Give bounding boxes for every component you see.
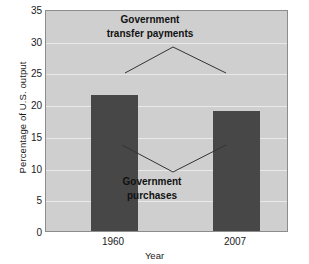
annotation-line: Government	[100, 175, 204, 189]
annotation-line: purchases	[100, 189, 204, 203]
x-tick-label-1960: 1960	[83, 236, 143, 247]
gridline	[46, 74, 287, 75]
bar-2007	[213, 111, 260, 231]
y-tick-label: 15	[18, 131, 42, 142]
y-tick-label: 5	[18, 195, 42, 206]
y-tick-label: 20	[18, 100, 42, 111]
gridline	[46, 43, 287, 44]
annotation-transfer-payments: Government transfer payments	[84, 13, 216, 40]
y-tick-label: 25	[18, 68, 42, 79]
x-tick-label-2007: 2007	[205, 236, 265, 247]
y-tick-label: 0	[18, 227, 42, 238]
y-axis-ticks: 0 5 10 15 20 25 30 35	[16, 0, 42, 264]
x-axis-title: Year	[0, 250, 309, 261]
annotation-line: transfer payments	[84, 27, 216, 41]
annotation-line: Government	[84, 13, 216, 27]
y-tick-label: 10	[18, 163, 42, 174]
gridline	[46, 106, 287, 107]
chart-figure: Percentage of U.S. output 0 5 10 15 20 2…	[0, 0, 309, 264]
annotation-government-purchases: Government purchases	[100, 175, 204, 202]
bar-1960	[91, 95, 138, 231]
y-tick-label: 35	[18, 5, 42, 16]
y-tick-label: 30	[18, 36, 42, 47]
